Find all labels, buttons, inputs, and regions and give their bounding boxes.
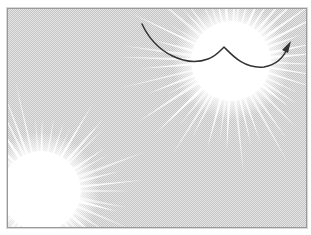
diagram-canvas xyxy=(8,9,306,227)
diagram-frame xyxy=(7,8,307,228)
